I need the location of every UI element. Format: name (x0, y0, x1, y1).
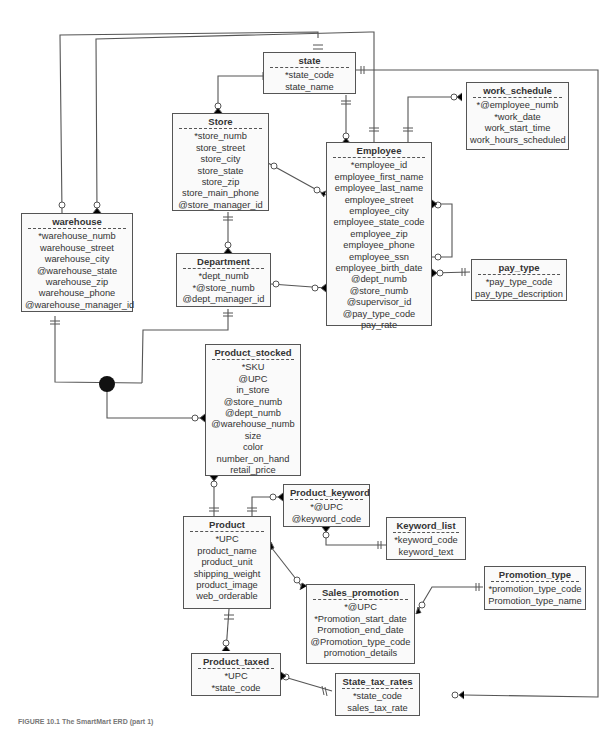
line-product-productkeyword (252, 497, 283, 516)
entity-employee[interactable]: Employee *employee_id employee_first_nam… (326, 142, 432, 326)
attribute: employee_street (330, 195, 428, 206)
attribute: @dept_manager_id (180, 294, 267, 305)
attribute: @warehouse_numb (209, 419, 297, 430)
attribute: @store_numb (330, 286, 428, 297)
entity-keyword-list[interactable]: Keyword_list *keyword_code keyword_text (386, 517, 466, 560)
entity-store[interactable]: Store *store_numb store_street store_cit… (172, 113, 269, 211)
entity-title: warehouse (28, 216, 126, 229)
attribute: *work_date (470, 112, 565, 123)
attribute: *keyword_code (390, 535, 462, 546)
attribute: warehouse_zip (25, 277, 129, 288)
entity-title: Product (190, 519, 264, 532)
attribute: @UPC (209, 374, 297, 385)
attribute: keyword_text (390, 547, 462, 558)
entity-department[interactable]: Department *dept_numb *@store_numb @dept… (176, 253, 271, 307)
entity-pay-type[interactable]: pay_type *pay_type_code pay_type_descrip… (471, 259, 567, 301)
attribute: employee_first_name (330, 172, 428, 183)
attribute: *warehouse_numb (25, 231, 129, 242)
figure-caption: FIGURE 10.1 The SmartMart ERD (part 1) (18, 718, 153, 725)
entity-product-keyword[interactable]: Product_keyword *@UPC @keyword_code (283, 484, 370, 527)
line-warehouse-xor (55, 316, 142, 383)
entity-warehouse[interactable]: warehouse *warehouse_numb warehouse_stre… (21, 213, 133, 312)
line-promotiontype-salespromotion (416, 587, 483, 614)
attribute: @store_manager_id (176, 200, 265, 211)
entity-title: Keyword_list (393, 520, 459, 533)
attribute: @store_numb (209, 397, 297, 408)
attribute: *pay_type_code (475, 277, 563, 288)
attribute: *@employee_numb (470, 100, 565, 111)
attribute: employee_phone (330, 240, 428, 251)
entity-promotion-type[interactable]: Promotion_type *promotion_type_code Prom… (484, 566, 586, 610)
attribute: employee_birth_date (330, 263, 428, 274)
attribute: @supervisor_id (330, 297, 428, 308)
entity-title: Product_stocked (212, 347, 294, 360)
attribute: *promotion_type_code (488, 584, 582, 595)
attribute: @keyword_code (287, 514, 366, 525)
entity-state[interactable]: state *state_code state_name (263, 52, 356, 94)
exclusive-or-dot (99, 376, 115, 392)
attribute: promotion_details (310, 648, 411, 659)
attribute: store_state (176, 166, 265, 177)
attribute: employee_state_code (330, 217, 428, 228)
line-employee-workschedule (408, 97, 462, 143)
attribute: *UPC (195, 671, 277, 682)
attribute: *state_code (339, 691, 416, 702)
attribute: store_main_phone (176, 188, 265, 199)
entity-title: Promotion_type (491, 569, 579, 582)
attribute: *Promotion_start_date (310, 614, 411, 625)
attribute: product_name (187, 546, 267, 557)
entity-state-tax-rates[interactable]: State_tax_rates *state_code sales_tax_ra… (335, 673, 420, 716)
attribute: pay_rate (330, 320, 428, 331)
line-productkeyword-keywordlist (326, 527, 386, 545)
line-xor-productstocked (107, 389, 205, 418)
attribute: *dept_numb (180, 271, 267, 282)
attribute: state_name (267, 82, 352, 93)
entity-sales-promotion[interactable]: Sales_promotion *@UPC *Promotion_start_d… (306, 584, 415, 664)
attribute: pay_type_description (475, 289, 563, 300)
attribute: work_start_time (470, 123, 565, 134)
attribute: number_on_hand (209, 454, 297, 465)
entity-title: Product_taxed (198, 656, 274, 669)
attribute: @pay_type_code (330, 309, 428, 320)
entity-title: State_tax_rates (342, 676, 413, 689)
entity-title: work_schedule (473, 85, 562, 98)
attribute: @dept_numb (209, 408, 297, 419)
entity-title: pay_type (478, 262, 560, 275)
entity-title: Employee (333, 145, 425, 158)
entity-title: Product_keyword (290, 487, 363, 500)
attribute: *UPC (187, 534, 267, 545)
attribute: @dept_numb (330, 274, 428, 285)
attribute: work_hours_scheduled (470, 135, 565, 146)
attribute: in_store (209, 385, 297, 396)
attribute: warehouse_city (25, 254, 129, 265)
attribute: store_street (176, 143, 265, 154)
attribute: store_city (176, 154, 265, 165)
line-employee-supervisor (432, 204, 452, 257)
attribute: Promotion_type_name (488, 596, 582, 607)
attribute: @warehouse_state (25, 266, 129, 277)
entity-title: Store (179, 116, 262, 129)
attribute: web_orderable (187, 591, 267, 602)
attribute: shipping_weight (187, 569, 267, 580)
entity-work-schedule[interactable]: work_schedule *@employee_numb *work_date… (466, 82, 569, 150)
line-state-store (218, 76, 263, 113)
entity-title: Department (183, 256, 264, 269)
attribute: store_zip (176, 177, 265, 188)
attribute: *state_code (195, 683, 277, 694)
attribute: *@store_numb (180, 283, 267, 294)
entity-product[interactable]: Product *UPC product_name product_unit s… (183, 516, 271, 609)
entity-product-stocked[interactable]: Product_stocked *SKU @UPC in_store @stor… (205, 344, 301, 476)
entity-title: Sales_promotion (313, 587, 408, 600)
entity-product-taxed[interactable]: Product_taxed *UPC *state_code (191, 653, 281, 696)
attribute: product_unit (187, 557, 267, 568)
attribute: *state_code (267, 70, 352, 81)
attribute: retail_price (209, 465, 297, 476)
attribute: employee_zip (330, 229, 428, 240)
attribute: Promotion_end_date (310, 625, 411, 636)
entity-title: state (270, 55, 349, 68)
attribute: @warehouse_manager_id (25, 300, 129, 311)
attribute: *@UPC (310, 602, 411, 613)
attribute: color (209, 442, 297, 453)
attribute: size (209, 431, 297, 442)
attribute: sales_tax_rate (339, 703, 416, 714)
